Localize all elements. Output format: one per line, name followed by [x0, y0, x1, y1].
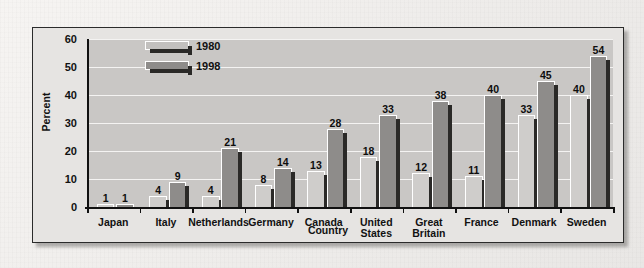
bar-shadow	[396, 119, 400, 207]
y-tick-label: 40	[51, 89, 77, 101]
bar-value-label: 45	[540, 69, 552, 81]
chart-figure: Percent 0102030405060 114942181413281833…	[32, 27, 624, 243]
bar-1998-canada: 28	[327, 129, 345, 207]
bar-1980-sweden: 40	[570, 95, 588, 207]
legend-item-1980: 1980	[145, 40, 220, 51]
bar-shadow	[448, 105, 452, 207]
bar-value-label: 4	[155, 184, 161, 196]
x-axis-title: Country	[33, 224, 623, 236]
bar-shadow	[606, 60, 610, 207]
bar-1998-france: 40	[484, 95, 502, 207]
legend-swatch-1980	[145, 41, 189, 50]
bar-value-label: 54	[593, 44, 605, 56]
y-tick-label: 0	[51, 201, 77, 213]
chart-legend: 1980 1998	[145, 40, 220, 80]
legend-swatch-1998	[145, 61, 189, 70]
y-tick-label: 10	[51, 173, 77, 185]
bar-value-label: 33	[521, 103, 533, 115]
bar-value-label: 4	[208, 184, 214, 196]
bar-1980-canada: 13	[307, 171, 325, 207]
y-axis-ticks: 0102030405060	[49, 28, 77, 242]
bar-1980-italy: 4	[149, 196, 167, 207]
bar-1980-united-states: 18	[360, 157, 378, 207]
chart-inner: Percent 0102030405060 114942181413281833…	[33, 28, 623, 242]
bar-1980-netherlands: 4	[202, 196, 220, 207]
bar-1998-italy: 9	[169, 182, 187, 207]
bar-value-label: 9	[175, 170, 181, 182]
x-tickmark	[508, 207, 510, 213]
x-tickmark	[192, 207, 194, 213]
x-tickmark	[140, 207, 142, 213]
legend-label-1998: 1998	[196, 60, 220, 72]
y-tick-label: 60	[51, 33, 77, 45]
bar-1980-germany: 8	[255, 185, 273, 207]
bar-shadow	[291, 172, 295, 207]
legend-label-1980: 1980	[196, 40, 220, 52]
x-tickmark	[245, 207, 247, 213]
x-tickmark	[613, 207, 615, 213]
y-tick-label: 30	[51, 117, 77, 129]
bar-value-label: 21	[224, 136, 236, 148]
bar-value-label: 40	[487, 83, 499, 95]
bar-shadow	[343, 133, 347, 207]
bar-value-label: 13	[310, 159, 322, 171]
bar-value-label: 18	[363, 145, 375, 157]
bar-value-label: 38	[435, 89, 447, 101]
bar-value-label: 40	[573, 83, 585, 95]
bar-1998-denmark: 45	[537, 81, 555, 207]
x-tickmark	[560, 207, 562, 213]
bar-value-label: 28	[330, 117, 342, 129]
x-tickmark	[455, 207, 457, 213]
bar-1998-sweden: 54	[590, 56, 608, 207]
bar-1998-great-britain: 38	[432, 101, 450, 207]
bar-shadow	[501, 99, 505, 207]
bar-shadow	[185, 186, 189, 207]
y-tick-label: 20	[51, 145, 77, 157]
bar-value-label: 1	[122, 192, 128, 204]
x-tickmark	[87, 207, 89, 213]
bar-value-label: 8	[260, 173, 266, 185]
bar-1998-netherlands: 21	[221, 148, 239, 207]
bar-1998-united-states: 33	[379, 115, 397, 207]
legend-item-1998: 1998	[145, 60, 220, 71]
x-tickmark	[403, 207, 405, 213]
bar-shadow	[238, 152, 242, 207]
bar-value-label: 33	[382, 103, 394, 115]
bar-shadow	[554, 85, 558, 207]
x-tickmark	[297, 207, 299, 213]
bar-1980-great-britain: 12	[412, 173, 430, 207]
bar-1980-france: 11	[465, 176, 483, 207]
bar-1980-denmark: 33	[518, 115, 536, 207]
bar-1998-germany: 14	[274, 168, 292, 207]
bar-value-label: 14	[277, 156, 289, 168]
bar-value-label: 11	[468, 164, 479, 176]
bar-value-label: 1	[103, 192, 109, 204]
bar-value-label: 12	[415, 161, 427, 173]
y-tick-label: 50	[51, 61, 77, 73]
x-axis-line	[85, 207, 613, 209]
x-tickmark	[350, 207, 352, 213]
